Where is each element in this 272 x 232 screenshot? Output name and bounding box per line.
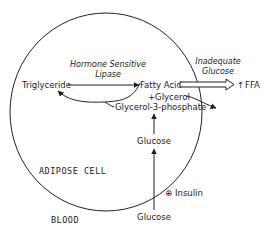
adipose-cell-label: ADIPOSE CELL <box>39 166 106 176</box>
cell-membrane <box>10 13 202 211</box>
insulin-label: Insulin <box>175 188 203 198</box>
insulin-plus-icon: ⊕ <box>165 188 172 198</box>
enzyme-label-line1: Hormone Sensitive <box>70 60 146 69</box>
triglyceride-label: Triglyceride <box>21 80 71 90</box>
ffa-label: FFA <box>245 80 260 90</box>
glucose-blood-label: Glucose <box>137 212 171 222</box>
ffa-increase-icon: ↑ <box>237 80 244 90</box>
blood-label: BLOOD <box>51 215 79 225</box>
fatty-acid-label: Fatty Acid <box>140 80 182 90</box>
glycerol-label: +Glycerol <box>148 92 190 102</box>
glucose-cell-label: Glucose <box>137 136 171 146</box>
glycerol-3-phosphate-label: Glycerol-3-phosphate <box>115 102 206 112</box>
adipose-lipolysis-diagram: Hormone Sensitive Lipase Triglyceride Fa… <box>0 0 272 232</box>
condition-label-line2: Glucose <box>202 67 234 76</box>
condition-label-line1: Inadequate <box>195 57 241 66</box>
ffa-export-arrow <box>180 79 234 90</box>
enzyme-label-line2: Lipase <box>95 70 121 79</box>
g3p-connector <box>105 102 114 107</box>
